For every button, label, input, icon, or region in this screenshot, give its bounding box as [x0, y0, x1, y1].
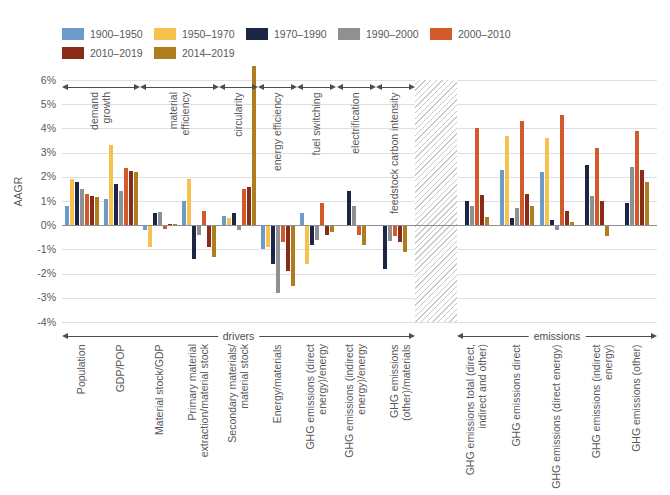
category-label: Material stock/GDP — [154, 344, 167, 494]
legend-label: 2000–2010 — [458, 28, 511, 40]
bar — [530, 206, 534, 225]
bar — [565, 211, 569, 226]
legend-label: 1950–1970 — [182, 28, 235, 40]
legend-label: 2014–2019 — [182, 47, 235, 59]
bar — [500, 170, 504, 226]
bar — [261, 225, 265, 249]
bar — [119, 191, 123, 225]
gridline — [62, 274, 657, 275]
arrow-right-icon — [651, 333, 657, 339]
arrow-line — [340, 87, 373, 88]
bar — [65, 206, 69, 225]
gridline — [62, 249, 657, 250]
bar — [202, 211, 206, 226]
bar — [485, 217, 489, 226]
bar — [124, 168, 128, 225]
bar — [148, 225, 152, 247]
drivers-section-label: drivers — [218, 330, 260, 343]
bar — [291, 225, 295, 286]
arrow-left-icon — [258, 84, 264, 90]
category-label: GHG emissions (other)/materials — [389, 344, 402, 494]
section-divider-hatch — [415, 80, 457, 322]
drivers-section-arrow: drivers — [62, 330, 415, 343]
y-tick-label: -2% — [22, 267, 56, 280]
y-tick-label: 5% — [22, 98, 56, 111]
legend-item: 1900–1950 — [62, 28, 154, 40]
legend-swatch-icon — [246, 28, 268, 40]
annotation-label: demand growth — [89, 92, 113, 242]
arrow-left-icon — [376, 84, 382, 90]
arrow-line — [222, 87, 255, 88]
bar — [85, 194, 89, 226]
arrow-right-icon — [409, 84, 415, 90]
arrow-line — [65, 87, 137, 88]
arrow-left-icon — [457, 333, 463, 339]
bar — [75, 182, 79, 226]
emissions-section-label: emissions — [529, 330, 586, 343]
legend-swatch-icon — [154, 47, 176, 59]
bar — [383, 225, 387, 269]
arrow-line — [300, 87, 333, 88]
bar — [465, 201, 469, 225]
category-label: Population — [75, 344, 88, 494]
legend-item: 2014–2019 — [154, 47, 246, 59]
bar — [330, 225, 334, 232]
bar — [114, 184, 118, 225]
category-label: GHG emissions (indirect energy)/energy — [344, 344, 368, 494]
y-tick-label: 2% — [22, 170, 56, 183]
arrow-line — [379, 87, 412, 88]
legend-swatch-icon — [430, 28, 452, 40]
y-tick-label: -4% — [22, 316, 56, 329]
legend-label: 1990–2000 — [366, 28, 419, 40]
arrow-line — [261, 87, 294, 88]
chart-figure: 1900–19501950–19701970–19901990–20002000… — [0, 0, 670, 495]
bar — [560, 115, 564, 225]
arrow-left-icon — [62, 84, 68, 90]
legend-item: 2000–2010 — [430, 28, 522, 40]
arrow-right-icon — [213, 84, 219, 90]
bar — [70, 179, 74, 225]
bar — [645, 182, 649, 226]
category-label: Primary material extraction/material sto… — [187, 344, 211, 494]
category-label: GHG emissions (direct energy)/energy — [305, 344, 329, 494]
annotation-label: circularity — [232, 92, 245, 242]
bar — [197, 225, 201, 235]
legend-label: 1900–1950 — [90, 28, 143, 40]
legend-item: 1990–2000 — [338, 28, 430, 40]
bar — [134, 172, 138, 225]
y-tick-label: -3% — [22, 291, 56, 304]
annotation-label: material efficiency — [168, 92, 192, 242]
bar — [300, 213, 304, 225]
legend-swatch-icon — [338, 28, 360, 40]
legend-swatch-icon — [62, 47, 84, 59]
arrow-right-icon — [330, 84, 336, 90]
legend-item: 2010–2019 — [62, 47, 154, 59]
bar — [403, 225, 407, 252]
bar — [585, 165, 589, 226]
y-tick-label: 4% — [22, 122, 56, 135]
bar — [153, 213, 157, 225]
bar — [545, 138, 549, 225]
y-tick-label: -1% — [22, 243, 56, 256]
category-label: Energy/materials — [271, 344, 284, 494]
arrow-left-icon — [219, 84, 225, 90]
arrow-line — [143, 87, 215, 88]
bar — [470, 206, 474, 225]
annotation-label: fuel switching — [310, 92, 323, 242]
bar — [510, 218, 514, 225]
legend-item: 1950–1970 — [154, 28, 246, 40]
y-tick-label: 0% — [22, 219, 56, 232]
bar — [80, 189, 84, 225]
bar — [222, 216, 226, 226]
gridline — [62, 322, 657, 323]
category-label: Secondary materials/ material stock — [227, 344, 251, 494]
gridline — [62, 298, 657, 299]
bar — [515, 208, 519, 225]
legend-item: 1970–1990 — [246, 28, 338, 40]
bar — [640, 170, 644, 226]
bar — [158, 212, 162, 225]
bar — [192, 225, 196, 259]
annotation-label: electrification — [350, 92, 363, 242]
bar — [247, 187, 251, 226]
bar — [475, 128, 479, 225]
